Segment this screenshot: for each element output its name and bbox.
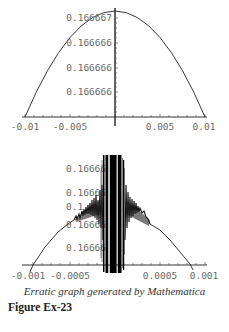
bottom-y-label: 0.16666 [66, 242, 106, 253]
top-x-label: -0.005 [53, 121, 87, 132]
top-y-label: 0.166666 [66, 62, 112, 73]
top-x-label: -0.01 [11, 121, 40, 132]
bottom-x-label: -0.0005 [50, 270, 90, 281]
bottom-x-label: -0.001 [11, 270, 46, 281]
top-x-label: 0.01 [193, 121, 216, 132]
bottom-x-label: 0.0005 [143, 270, 177, 281]
top-y-label: 0.166666 [66, 37, 112, 48]
bottom-noise-fill-right [126, 200, 150, 226]
top-y-label: 0.166666 [66, 86, 112, 97]
top-chart: 0.166667 0.166666 0.166666 0.166666 -0.0… [11, 8, 216, 132]
bottom-x-label: 0.001 [190, 270, 219, 281]
top-y-label: 0.166667 [66, 12, 112, 23]
bottom-curve-right [150, 224, 193, 270]
bottom-y-label: 0.16666 [66, 163, 106, 174]
figure-canvas: 0.166667 0.166666 0.166666 0.166666 -0.0… [0, 0, 229, 332]
figure-caption: Erratic graph generated by Mathematica [0, 285, 229, 297]
bottom-erratic-bars [103, 155, 124, 273]
bottom-chart: 0.16666 0.16666 0.1 0.16666 0.16666 [11, 155, 219, 281]
figure-label: Figure Ex-23 [8, 301, 72, 313]
bottom-y-label: 0.1 [66, 201, 83, 212]
top-x-label: 0.005 [146, 121, 175, 132]
